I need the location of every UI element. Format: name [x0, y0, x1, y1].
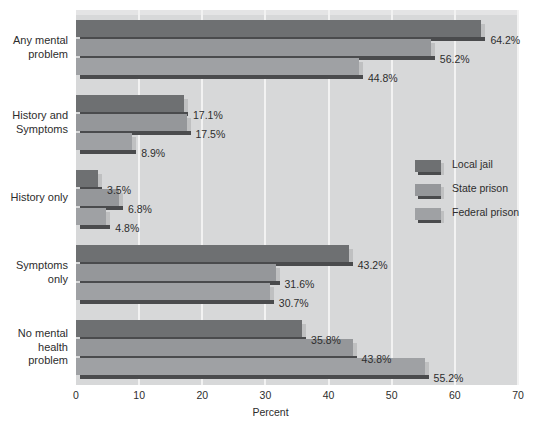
- plot-area: [76, 10, 518, 385]
- value-label: 64.2%: [490, 34, 520, 46]
- bar: [76, 245, 349, 262]
- category-label-line: health: [0, 341, 68, 355]
- gridline-50: [391, 10, 393, 385]
- legend-swatch-side: [441, 163, 444, 175]
- x-tick-0: 0: [73, 389, 79, 401]
- category-label-line: History and: [0, 109, 68, 123]
- category-label: Any mentalproblem: [0, 34, 68, 61]
- bar: [76, 283, 270, 300]
- value-label: 43.2%: [358, 259, 388, 271]
- bar-front-face: [76, 20, 481, 37]
- legend-swatch: [415, 160, 441, 172]
- bar: [76, 208, 106, 225]
- value-label: 3.5%: [107, 184, 131, 196]
- x-tick-60: 60: [449, 389, 461, 401]
- bar: [76, 320, 302, 337]
- bar-bottom-face: [80, 300, 274, 304]
- bar-bottom-face: [80, 75, 363, 79]
- value-label: 31.6%: [285, 278, 315, 290]
- category-label-line: History only: [0, 191, 68, 205]
- legend-label: Federal prison: [452, 206, 519, 218]
- bar-front-face: [76, 95, 184, 112]
- legend-swatch-side: [441, 211, 444, 223]
- value-label: 55.2%: [434, 372, 464, 384]
- gridline-70: [517, 10, 519, 385]
- bar: [76, 95, 184, 112]
- bar: [76, 58, 359, 75]
- legend-swatch-side: [441, 187, 444, 199]
- x-tick-20: 20: [196, 389, 208, 401]
- bar-bottom-face: [80, 150, 136, 154]
- category-label-line: problem: [0, 354, 68, 368]
- bar-bottom-face: [80, 375, 429, 379]
- value-label: 4.8%: [115, 222, 139, 234]
- bar-front-face: [76, 245, 349, 262]
- legend-swatch: [415, 184, 441, 196]
- bar: [76, 39, 431, 56]
- bar-front-face: [76, 264, 276, 281]
- category-label-line: Any mental: [0, 34, 68, 48]
- category-label: Symptomsonly: [0, 259, 68, 286]
- x-axis-title: Percent: [0, 406, 541, 418]
- category-label-line: only: [0, 273, 68, 287]
- legend-label: State prison: [452, 182, 508, 194]
- bar-chart: Any mentalproblemHistory andSymptomsHist…: [0, 0, 541, 435]
- bar-bottom-face: [80, 225, 110, 229]
- bar-front-face: [76, 114, 187, 131]
- x-tick-70: 70: [512, 389, 524, 401]
- value-label: 6.8%: [128, 203, 152, 215]
- x-tick-30: 30: [260, 389, 272, 401]
- bar: [76, 264, 276, 281]
- category-label: History only: [0, 191, 68, 205]
- value-label: 35.8%: [311, 334, 341, 346]
- value-label: 30.7%: [279, 297, 309, 309]
- value-label: 8.9%: [141, 147, 165, 159]
- value-label: 17.5%: [196, 128, 226, 140]
- legend-swatch: [415, 208, 441, 220]
- category-label: History andSymptoms: [0, 109, 68, 136]
- bar-front-face: [76, 133, 132, 150]
- category-label-line: No mental: [0, 327, 68, 341]
- plot-top-edge: [76, 10, 518, 15]
- bar-front-face: [76, 208, 106, 225]
- category-label-line: Symptoms: [0, 259, 68, 273]
- category-label-line: problem: [0, 48, 68, 62]
- bar: [76, 20, 481, 37]
- bar: [76, 114, 187, 131]
- bar: [76, 170, 98, 187]
- bar: [76, 133, 132, 150]
- bar-front-face: [76, 170, 98, 187]
- legend-label: Local jail: [452, 158, 493, 170]
- gridline-60: [454, 10, 456, 385]
- x-tick-50: 50: [386, 389, 398, 401]
- bar-front-face: [76, 58, 359, 75]
- bar-front-face: [76, 283, 270, 300]
- value-label: 43.8%: [362, 353, 392, 365]
- bar-front-face: [76, 39, 431, 56]
- value-label: 56.2%: [440, 53, 470, 65]
- category-label: No mentalhealthproblem: [0, 327, 68, 368]
- x-tick-10: 10: [133, 389, 145, 401]
- bar-front-face: [76, 320, 302, 337]
- value-label: 17.1%: [193, 109, 223, 121]
- category-label-line: Symptoms: [0, 123, 68, 137]
- x-tick-40: 40: [323, 389, 335, 401]
- value-label: 44.8%: [368, 72, 398, 84]
